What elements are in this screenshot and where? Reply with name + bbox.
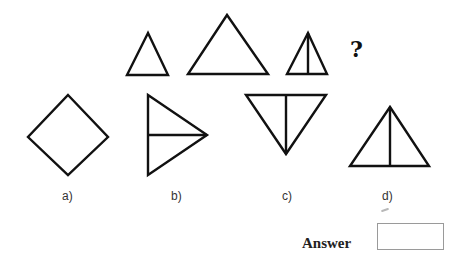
option-c-label[interactable]: c) [282, 189, 292, 203]
option-a-diamond[interactable] [28, 95, 108, 175]
puzzle-figures [0, 0, 462, 261]
question-mark: ? [350, 36, 363, 62]
sequence-large-triangle [188, 15, 268, 74]
answer-input-box[interactable] [377, 223, 444, 250]
option-b-label[interactable]: b) [171, 189, 182, 203]
option-d-figure[interactable] [350, 107, 429, 166]
sequence-small-triangle [127, 33, 168, 75]
option-b-figure[interactable] [148, 95, 207, 175]
option-d-label[interactable]: d) [382, 189, 393, 203]
option-a-label[interactable]: a) [62, 189, 73, 203]
option-c-figure[interactable] [246, 95, 326, 154]
sequence-divided-triangle [287, 33, 327, 74]
answer-label: Answer [302, 235, 351, 252]
